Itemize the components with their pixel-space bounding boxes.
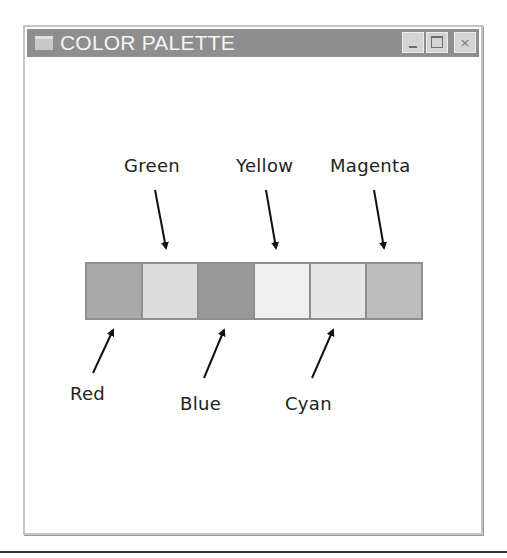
arrow-blue [204,330,224,378]
page-divider [0,551,507,553]
arrow-magenta [374,190,384,248]
arrow-green [155,190,166,248]
callout-arrows [0,0,507,558]
arrow-cyan [312,330,333,378]
arrow-red [93,330,113,373]
arrow-yellow [266,190,276,248]
